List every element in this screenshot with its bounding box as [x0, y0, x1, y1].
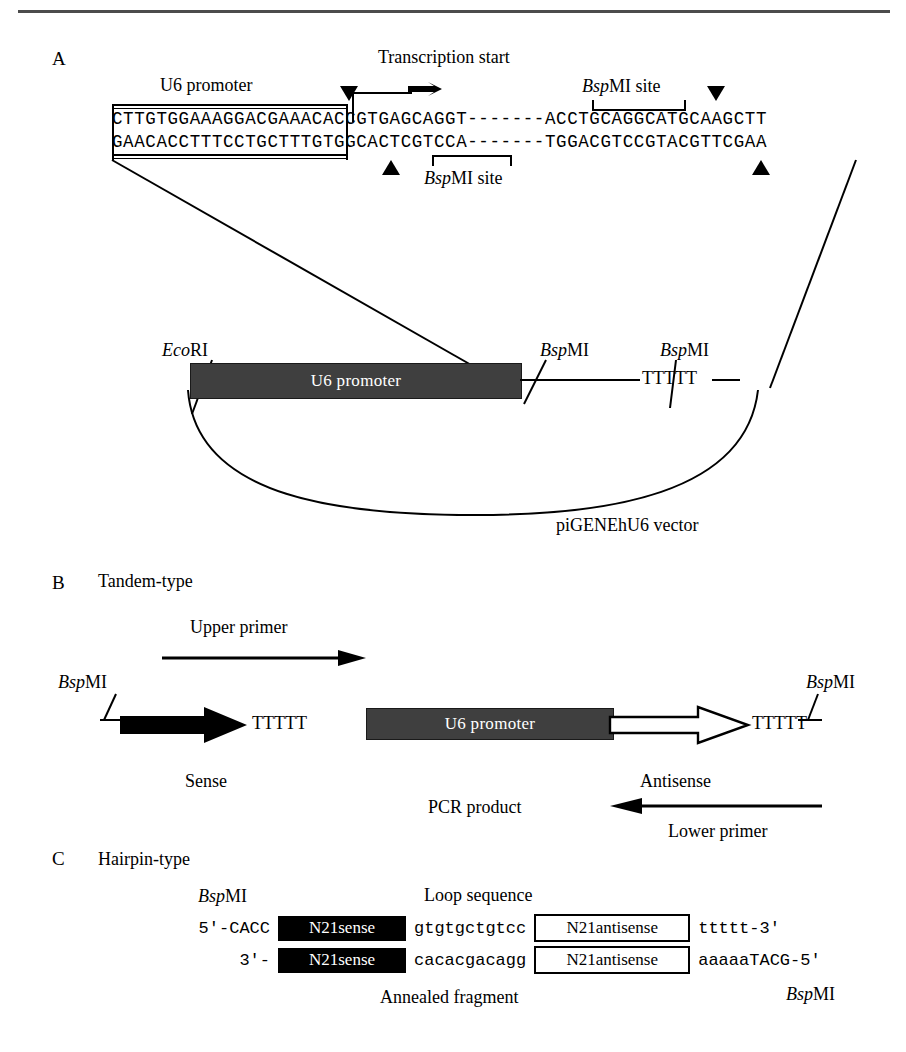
lower-primer-label: Lower primer — [668, 822, 767, 840]
hairpin-bottom-antisense-box: N21antisense — [534, 946, 690, 974]
panel-b-u6-promoter-bar-label: U6 promoter — [445, 714, 536, 734]
panel-b-terminator-left: TTTTT — [252, 714, 307, 732]
zoom-leader-left — [90, 160, 510, 380]
figure-canvas: A Transcription start U6 promoter BspMI … — [0, 0, 906, 1052]
sequence-bottom-strand: GAACACCTTTCCTGCTTTGTGGCACTCGTCCA-------T… — [112, 131, 767, 154]
hairpin-top-antisense-box-label: N21antisense — [566, 918, 658, 938]
sense-label: Sense — [185, 772, 227, 790]
vector-bspmi-right-label: BspMI — [660, 340, 709, 361]
lower-primer-arrow — [608, 796, 824, 816]
hairpin-top-antisense-box: N21antisense — [534, 914, 690, 942]
header-divider — [18, 10, 890, 13]
hairpin-bottom-tail: aaaaaTACG-5′ — [698, 952, 820, 969]
hairpin-top-five-prime: 5′-CACC — [180, 920, 270, 937]
transcription-arrow-bar — [352, 92, 412, 94]
transcription-start-label: Transcription start — [378, 48, 510, 66]
transcription-arrow-head — [408, 82, 442, 104]
promoter-underline-top — [112, 104, 348, 106]
panel-b-bspmi-left-label: BspMI — [58, 672, 107, 693]
upper-primer-label: Upper primer — [190, 618, 287, 636]
panel-c-letter: C — [52, 848, 65, 870]
hairpin-bottom-loop: cacacgacagg — [414, 952, 526, 969]
vector-bspmi-left-label: BspMI — [540, 340, 589, 361]
panel-a-letter: A — [52, 48, 66, 70]
hairpin-top-sense-box-label: N21sense — [309, 918, 375, 938]
panel-b-title: Tandem-type — [98, 572, 193, 590]
panel-a-sequence-block: CTTGTGGAAAGGACGAAACACCGTGAGCAGGT-------A… — [112, 108, 767, 154]
antisense-arrow — [610, 706, 750, 744]
bspmi-site-top-label: BspMI site — [582, 76, 661, 97]
panel-b-letter: B — [52, 572, 65, 594]
vector-name-label: piGENEhU6 vector — [556, 516, 698, 534]
loop-sequence-label: Loop sequence — [424, 886, 532, 904]
pcr-product-label: PCR product — [428, 798, 522, 816]
antisense-label: Antisense — [640, 772, 711, 790]
cut-arrow-top-left-icon — [340, 86, 358, 101]
vector-u6-promoter-bar-label: U6 promoter — [311, 371, 402, 391]
panel-c-title: Hairpin-type — [98, 850, 190, 868]
cut-arrow-top-right-icon — [707, 86, 725, 101]
plasmid-backbone-arc — [186, 390, 766, 520]
promoter-underline-bottom — [112, 154, 348, 156]
hairpin-bottom-sense-box-label: N21sense — [309, 950, 375, 970]
sequence-top-strand: CTTGTGGAAAGGACGAAACACCGTGAGCAGGT-------A… — [112, 108, 767, 131]
panel-b-u6-promoter-bar: U6 promoter — [366, 708, 614, 740]
annealed-fragment-label: Annealed fragment — [380, 988, 518, 1006]
panel-b-bspmi-right-tick — [796, 694, 836, 730]
promoter-underline-bottom-2 — [112, 158, 348, 159]
vector-terminator-label: TTTTT — [642, 369, 697, 387]
hairpin-bottom-antisense-box-label: N21antisense — [566, 950, 658, 970]
zoom-leader-right — [768, 160, 868, 390]
hairpin-bottom-strand-row: 3′- N21sense cacacgacagg N21antisense aa… — [180, 946, 821, 974]
hairpin-bottom-sense-box: N21sense — [278, 948, 406, 973]
hairpin-top-sense-box: N21sense — [278, 916, 406, 941]
sense-arrow — [120, 706, 248, 744]
hairpin-top-tail: ttttt-3′ — [698, 920, 780, 937]
panel-c-bspmi-top-label: BspMI — [198, 886, 247, 907]
panel-b-bspmi-right-label: BspMI — [806, 672, 855, 693]
hairpin-bottom-three-prime: 3′- — [180, 952, 270, 969]
hairpin-top-loop: gtgtgctgtcc — [414, 920, 526, 937]
upper-primer-arrow — [162, 648, 368, 668]
hairpin-top-strand-row: 5′-CACC N21sense gtgtgctgtcc N21antisens… — [180, 914, 780, 942]
panel-a-u6-promoter-label: U6 promoter — [160, 76, 252, 94]
vector-linker-line-left — [520, 379, 640, 381]
panel-c-bspmi-bottom-label: BspMI — [786, 984, 835, 1005]
vector-linker-line-right — [712, 379, 740, 381]
ecori-label: EcoRI — [162, 340, 208, 361]
